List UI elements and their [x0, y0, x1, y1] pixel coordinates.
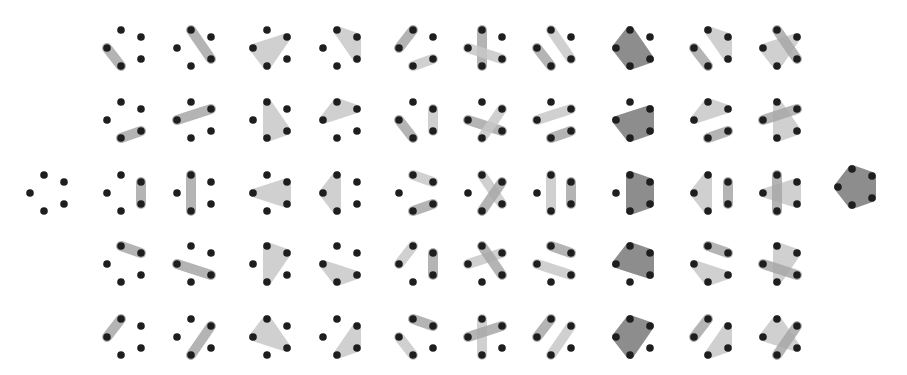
- point-dot: [567, 249, 575, 257]
- point-dot: [117, 98, 125, 106]
- polygon-shape: [838, 169, 872, 205]
- point-dot: [464, 116, 472, 124]
- point-dot: [429, 178, 437, 186]
- segment-shape: [191, 326, 211, 355]
- segment-shape: [177, 264, 211, 275]
- point-dot: [498, 322, 506, 330]
- point-dot: [319, 189, 327, 197]
- point-dot: [793, 271, 801, 279]
- cell-r5-c10: [759, 315, 801, 359]
- point-dot: [103, 333, 111, 341]
- point-dot: [353, 322, 361, 330]
- point-dot: [187, 98, 195, 106]
- point-dot: [207, 344, 215, 352]
- point-dot: [690, 189, 698, 197]
- point-dot: [409, 351, 417, 359]
- point-dot: [173, 333, 181, 341]
- point-dot: [626, 278, 634, 286]
- cell-r3-c5: [395, 171, 437, 215]
- triangle-shape: [694, 102, 728, 120]
- point-dot: [626, 207, 634, 215]
- point-dot: [137, 200, 145, 208]
- cell-r3-c6: [464, 171, 506, 215]
- point-dot: [429, 55, 437, 63]
- point-dot: [137, 105, 145, 113]
- point-dot: [207, 249, 215, 257]
- point-dot: [704, 134, 712, 142]
- point-dot: [333, 134, 341, 142]
- point-dot: [137, 322, 145, 330]
- point-dot: [868, 172, 876, 180]
- cell-r3-c3: [249, 171, 291, 215]
- diagram-canvas: [0, 0, 907, 375]
- triangle-shape: [253, 182, 287, 204]
- point-dot: [353, 271, 361, 279]
- cell-r1-c4: [319, 26, 361, 70]
- point-dot: [409, 62, 417, 70]
- point-dot: [547, 26, 555, 34]
- point-dot: [690, 260, 698, 268]
- cell-r2-c8: [612, 98, 654, 142]
- cell-r2-c9: [690, 98, 732, 142]
- point-dot: [498, 105, 506, 113]
- point-dot: [464, 189, 472, 197]
- point-dot: [429, 271, 437, 279]
- point-dot: [612, 116, 620, 124]
- point-dot: [409, 98, 417, 106]
- point-dot: [333, 62, 341, 70]
- triangle-shape: [253, 319, 287, 348]
- point-dot: [646, 33, 654, 41]
- point-dot: [283, 178, 291, 186]
- point-dot: [547, 207, 555, 215]
- point-dot: [646, 344, 654, 352]
- point-dot: [773, 98, 781, 106]
- point-dot: [773, 134, 781, 142]
- triangle-shape: [694, 264, 728, 282]
- point-dot: [207, 271, 215, 279]
- cell-r5-c6: [464, 315, 506, 359]
- point-dot: [353, 55, 361, 63]
- point-dot: [567, 344, 575, 352]
- cell-r1-c5: [395, 26, 437, 70]
- point-dot: [478, 315, 486, 323]
- segment-shape: [191, 30, 211, 59]
- point-dot: [704, 315, 712, 323]
- point-dot: [478, 26, 486, 34]
- point-dot: [137, 127, 145, 135]
- point-dot: [333, 242, 341, 250]
- point-dot: [547, 98, 555, 106]
- point-dot: [429, 33, 437, 41]
- cell-r1-c7: [533, 26, 575, 70]
- point-dot: [793, 200, 801, 208]
- point-dot: [207, 127, 215, 135]
- point-dot: [724, 55, 732, 63]
- point-dot: [283, 344, 291, 352]
- cell-r3-c10: [759, 171, 801, 215]
- point-dot: [793, 249, 801, 257]
- point-dot: [207, 178, 215, 186]
- point-dot: [283, 322, 291, 330]
- cell-r2-c4: [319, 98, 361, 142]
- point-dot: [478, 134, 486, 142]
- cell-r3-c4: [319, 171, 361, 215]
- point-dot: [646, 200, 654, 208]
- point-dot: [834, 183, 842, 191]
- cell-r1-c6: [464, 26, 506, 70]
- point-dot: [283, 200, 291, 208]
- point-dot: [464, 260, 472, 268]
- cell-r5-c2: [173, 315, 215, 359]
- point-dot: [117, 26, 125, 34]
- cell-r2-c2: [173, 98, 215, 142]
- point-dot: [173, 116, 181, 124]
- triangle-shape: [323, 102, 357, 120]
- triangle-shape: [337, 30, 357, 59]
- point-dot: [353, 105, 361, 113]
- point-dot: [724, 322, 732, 330]
- point-dot: [187, 26, 195, 34]
- triangle-shape: [253, 37, 287, 66]
- point-dot: [60, 178, 68, 186]
- point-dot: [173, 44, 181, 52]
- point-dot: [724, 105, 732, 113]
- point-dot: [249, 189, 257, 197]
- point-dot: [646, 271, 654, 279]
